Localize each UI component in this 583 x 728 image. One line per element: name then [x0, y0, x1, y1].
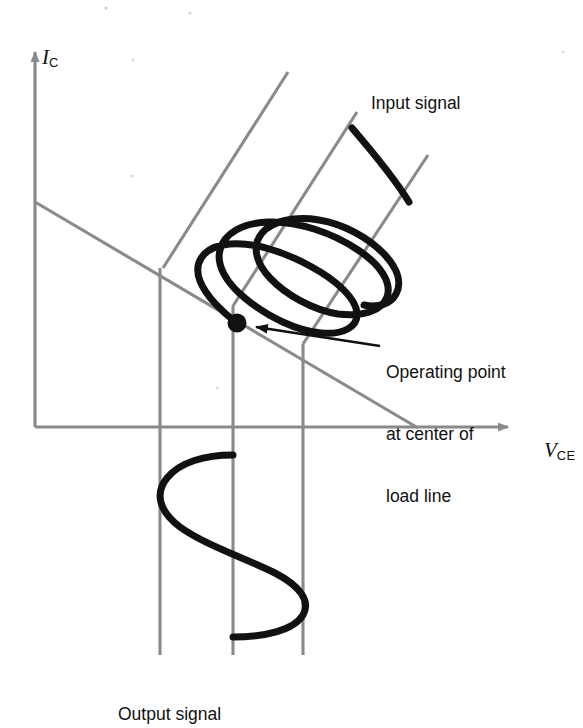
construction-lines: [35, 72, 428, 655]
operating-point-dot: [228, 314, 247, 333]
paper-speck: [131, 175, 134, 178]
operating-point-label: Operating point at center of load line: [386, 321, 506, 548]
y-axis-label-main: I: [42, 45, 49, 69]
operating-point-label-line1: Operating point: [386, 362, 506, 383]
operating-point-label-line3: load line: [386, 486, 506, 507]
x-axis-label-main: V: [544, 438, 557, 462]
x-axis-label: VCE: [523, 413, 576, 488]
x-axis-label-sub: CE: [557, 448, 576, 463]
paper-speck: [562, 51, 565, 54]
y-axis-label: IC: [21, 20, 59, 95]
load-line-figure: IC VCE Input signal Operating point at c…: [0, 0, 583, 728]
y-axis-label-sub: C: [49, 55, 59, 70]
output-signal-caption-line1: Output signal: [118, 704, 303, 725]
paper-speck: [189, 12, 192, 15]
constant-base-current-line-2: [233, 112, 357, 306]
paper-speck: [104, 6, 107, 9]
output-signal-caption: Output signal (360° conduction angle): [118, 663, 303, 728]
operating-point-label-line2: at center of: [386, 424, 506, 445]
input-signal-waveform: [198, 128, 399, 333]
input-signal-label: Input signal: [371, 93, 461, 114]
paper-speck: [132, 59, 135, 62]
paper-speck: [216, 387, 219, 390]
output-signal-waveform-detail: [162, 454, 294, 637]
